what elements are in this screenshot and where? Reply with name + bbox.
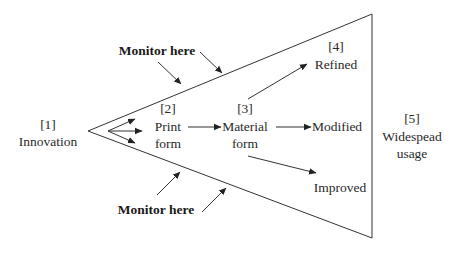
arrow-to-refined-icon [248,64,307,99]
stage-3-label-line2: form [232,136,259,151]
stage-2-print-form: [2] Print form [155,101,182,151]
stage-5-label-line1: Widespead [382,129,442,144]
stage-4-number: [4] [328,39,344,54]
stage-4-refined: [4] Refined [315,39,358,72]
stage-3-material-form: [3] Material form [222,101,268,151]
arrow-to-improved-icon [248,156,316,173]
outcome-refined: Refined [315,57,358,72]
stage-5-label-line2: usage [397,146,428,161]
stage-2-label-line1: Print [155,119,182,134]
stage-5-widespread-usage: [5] Widespead usage [382,111,442,161]
stage-3-number: [3] [237,101,253,116]
stage-1-label: Innovation [19,134,78,149]
monitor-bottom-arrow-2-icon [202,188,226,212]
stage-1-innovation: [1] Innovation [19,117,78,149]
stage-1-number: [1] [40,117,56,132]
innovation-diffusion-diagram: [1] Innovation [2] Print form [3] Materi… [0,0,460,253]
monitor-top-arrow-2-icon [200,52,222,73]
stage-2-label-line2: form [155,136,182,151]
monitor-here-bottom-label: Monitor here [118,202,194,217]
stage-3-label-line1: Material [222,119,268,134]
monitor-bottom-arrow-1-icon [157,172,180,195]
monitor-here-top-label: Monitor here [119,43,195,58]
stage-5-number: [5] [404,111,420,126]
stage-2-number: [2] [160,101,176,116]
outcome-modified: Modified [312,119,362,134]
arrow-apex-down-icon [108,131,135,143]
outcome-improved: Improved [314,180,367,195]
monitor-top-arrow-1-icon [158,62,181,84]
